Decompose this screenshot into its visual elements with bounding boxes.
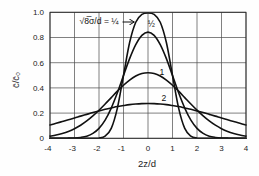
x-tick-label: 3 [219, 144, 224, 153]
curve-label: √8̅σ/d = ¼ [80, 16, 120, 26]
x-tick-label: 2 [195, 144, 200, 153]
x-tick-label: 4 [244, 144, 249, 153]
y-tick-label: 0.8 [33, 33, 45, 42]
y-tick-label: 0.4 [33, 84, 45, 93]
x-tick-label: -1 [118, 144, 126, 153]
x-tick-label: -3 [69, 144, 77, 153]
curve-label: 1 [160, 67, 165, 77]
curve-annotations: √8̅σ/d = ¼½12 [80, 16, 167, 102]
curve-label: ½ [148, 19, 155, 29]
y-tick-label: 1.0 [33, 8, 45, 17]
y-tick-label: 0 [40, 134, 45, 143]
y-axis-label: c̄/c̄₀ [10, 72, 21, 88]
grid [50, 12, 246, 138]
y-tick-label: 0.2 [33, 109, 45, 118]
y-tick-label: 0.6 [33, 59, 45, 68]
curve-label: 2 [162, 93, 167, 103]
x-tick-label: -2 [93, 144, 101, 153]
x-tick-label: 0 [146, 144, 151, 153]
figure: 00.20.40.60.81.0 -4-3-2-101234 2z/d c̄/c… [0, 0, 259, 176]
y-tick-labels: 00.20.40.60.81.0 [33, 8, 45, 143]
x-axis-label: 2z/d [138, 158, 156, 169]
concentration-profile-chart: 00.20.40.60.81.0 -4-3-2-101234 2z/d c̄/c… [0, 0, 259, 176]
x-tick-labels: -4-3-2-101234 [44, 144, 249, 153]
x-tick-label: 1 [170, 144, 175, 153]
x-tick-label: -4 [44, 144, 52, 153]
